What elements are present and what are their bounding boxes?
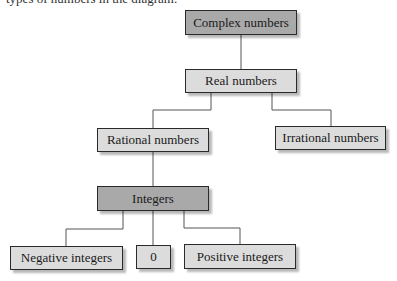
node-label: Real numbers [205, 73, 277, 89]
node-zero: 0 [136, 245, 171, 269]
node-complex-numbers: Complex numbers [185, 10, 297, 35]
edge-real-rational [153, 93, 211, 128]
node-negative-integers: Negative integers [10, 246, 123, 270]
node-label: 0 [150, 249, 157, 265]
node-label: Complex numbers [193, 15, 289, 31]
node-real-numbers: Real numbers [185, 69, 297, 93]
node-integers: Integers [97, 186, 209, 211]
edge-integers-negative [66, 211, 123, 246]
node-rational-numbers: Rational numbers [97, 128, 209, 152]
edge-integers-positive [184, 211, 240, 244]
node-label: Irrational numbers [282, 130, 378, 146]
edge-real-irrational [272, 93, 331, 126]
node-positive-integers: Positive integers [184, 244, 296, 269]
node-label: Rational numbers [107, 132, 199, 148]
node-irrational-numbers: Irrational numbers [275, 126, 386, 150]
node-label: Positive integers [197, 249, 283, 265]
node-label: Negative integers [21, 250, 112, 266]
node-label: Integers [132, 191, 174, 207]
